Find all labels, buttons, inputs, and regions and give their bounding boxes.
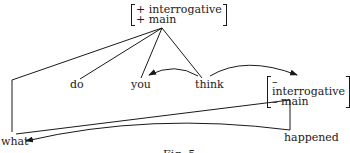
line-top-to-think — [162, 28, 202, 78]
feature-main-minus: – main — [272, 97, 345, 107]
figure-caption: Fig. 5 — [163, 149, 195, 153]
line-embedded-to-what — [16, 100, 290, 134]
word-do: do — [70, 79, 84, 90]
line-top-to-do — [80, 28, 162, 79]
bracket-left — [131, 4, 135, 26]
arrow-happened-to-what — [26, 123, 290, 141]
word-what: what — [1, 136, 28, 147]
word-happened: happened — [284, 132, 339, 143]
line-top-to-left — [12, 28, 162, 80]
arrow-think-to-embedded — [210, 65, 297, 76]
embedded-feature-matrix: – interrogative – main — [267, 76, 350, 108]
word-think: think — [195, 79, 224, 90]
arrow-think-to-you — [149, 69, 198, 76]
bracket-right — [346, 76, 350, 108]
feature-main-plus: + main — [136, 15, 222, 25]
top-feature-matrix: + interrogative + main — [131, 4, 227, 26]
bracket-right — [223, 4, 227, 26]
word-you: you — [131, 79, 151, 90]
bracket-left — [267, 76, 271, 108]
feature-interrogative-minus: – interrogative — [272, 77, 345, 97]
